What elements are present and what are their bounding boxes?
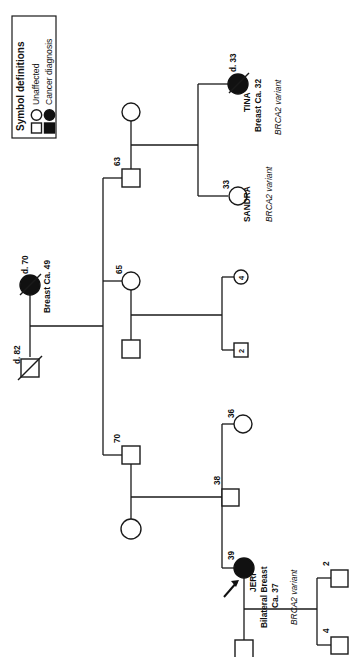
branch-son-70: 70 36 38 — [113, 408, 348, 657]
sandra-variant-label: BRCA2 variant — [264, 166, 274, 222]
sandra-name-label: SANDRA — [242, 186, 252, 222]
jeri-child-4-symbol[interactable] — [331, 637, 348, 654]
jeri-name-label: JERI — [248, 573, 258, 592]
child-2-age-label: 2 — [237, 349, 246, 353]
generation-1: d. 70 Breast Ca. 49 d. 82 — [13, 255, 103, 380]
proband-arrow-head — [231, 580, 239, 587]
person-child-4[interactable]: 4 — [234, 270, 248, 284]
daughter-36-symbol[interactable] — [234, 415, 252, 433]
person-jeri-child-2[interactable]: 2 — [322, 561, 348, 587]
tina-name-label: TINA — [242, 92, 252, 112]
son-38-age-label: 38 — [213, 475, 222, 485]
legend-open-circle-icon — [31, 110, 41, 120]
tina-diagnosis-label: Breast Ca. 32 — [253, 79, 263, 132]
pedigree-chart: Symbol definitions Unaffected Cancer dia… — [0, 0, 359, 657]
son-70-age-label: 70 — [113, 433, 122, 443]
jeri-diagnosis-line2: Ca. 37 — [270, 583, 280, 608]
son-38-symbol[interactable] — [222, 489, 239, 506]
pedigree-canvas: Symbol definitions Unaffected Cancer dia… — [0, 0, 359, 657]
generation-2-sibship — [103, 178, 122, 455]
person-spouse-70[interactable] — [121, 519, 141, 539]
spouse-70-symbol[interactable] — [121, 519, 141, 539]
legend-title: Symbol definitions — [15, 41, 26, 131]
legend: Symbol definitions Unaffected Cancer dia… — [12, 16, 56, 138]
person-sandra[interactable]: 33 SANDRA BRCA2 variant — [222, 166, 274, 222]
legend-open-square-icon — [32, 123, 42, 133]
legend-filled-square-icon — [45, 123, 55, 133]
person-tina[interactable]: d. 33 TINA Breast Ca. 32 BRCA2 variant — [228, 53, 283, 135]
founder-male-age-label: d. 82 — [13, 345, 22, 364]
son-63-symbol[interactable] — [122, 169, 140, 187]
person-child-2[interactable]: 2 — [234, 343, 248, 357]
jeri-child-2-age-label: 2 — [322, 561, 331, 566]
person-daughter-36[interactable]: 36 — [227, 408, 252, 433]
spouse-63-symbol[interactable] — [122, 103, 140, 121]
sandra-age-label: 33 — [222, 179, 231, 189]
jeri-child-4-age-label: 4 — [322, 628, 331, 633]
founder-female-diagnosis-label: Breast Ca. 49 — [42, 260, 52, 313]
legend-label-cancer-diagnosis: Cancer diagnosis — [44, 39, 54, 105]
jeri-variant-label: BRCA2 variant — [289, 569, 299, 625]
branch-son-63: 63 d. 33 TINA Breast Ca. 32 BRCA2 — [113, 53, 283, 222]
person-spouse-63[interactable] — [122, 103, 140, 121]
branch-daughter-65: 65 4 2 — [115, 264, 248, 358]
legend-label-unaffected: Unaffected — [31, 63, 41, 105]
proband-arrow-icon — [224, 580, 239, 597]
founder-female-age-label: d. 70 — [21, 255, 30, 274]
child-son-65-symbol[interactable] — [122, 340, 140, 358]
jeri-spouse-symbol[interactable] — [235, 640, 253, 657]
son-63-age-label: 63 — [113, 156, 122, 166]
daughter-65-age-label: 65 — [115, 264, 124, 274]
person-son-70[interactable]: 70 — [113, 433, 140, 464]
tina-variant-label: BRCA2 variant — [273, 79, 283, 135]
son-70-symbol[interactable] — [122, 446, 140, 464]
jeri-child-2-symbol[interactable] — [331, 570, 348, 587]
legend-filled-circle-icon — [44, 110, 54, 120]
person-founder-male[interactable]: d. 82 — [13, 345, 42, 380]
tina-age-label: d. 33 — [229, 53, 238, 72]
person-daughter-65[interactable]: 65 — [115, 264, 140, 290]
person-son-63[interactable]: 63 — [113, 156, 140, 187]
person-jeri-spouse[interactable] — [235, 640, 253, 657]
jeri-diagnosis-line1: Bilateral Breast — [259, 566, 269, 628]
daughter-36-age-label: 36 — [227, 408, 236, 418]
person-child-son-65[interactable] — [122, 340, 140, 358]
person-founder-female[interactable]: d. 70 Breast Ca. 49 — [20, 255, 52, 313]
person-jeri[interactable]: 39 JERI Bilateral Breast Ca. 37 BRCA2 va… — [224, 550, 299, 628]
person-son-38[interactable]: 38 — [213, 475, 239, 506]
person-jeri-child-4[interactable]: 4 — [322, 628, 348, 654]
jeri-age-label: 39 — [227, 550, 236, 560]
daughter-65-symbol[interactable] — [122, 272, 140, 290]
